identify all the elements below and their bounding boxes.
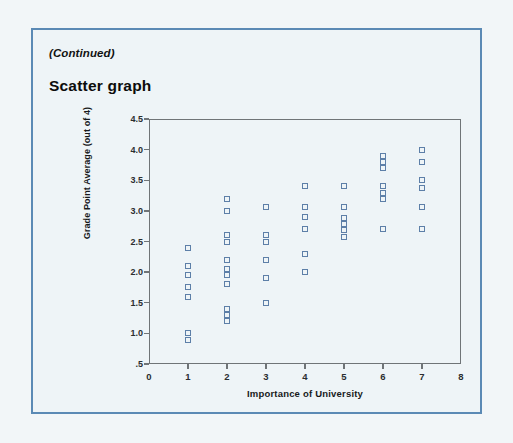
scanned-page: (Continued) Scatter graph Grade Point Av… xyxy=(0,0,513,443)
data-point xyxy=(224,318,230,324)
data-point xyxy=(224,272,230,278)
data-point xyxy=(341,221,347,227)
y-tick-mark xyxy=(144,180,149,181)
data-point xyxy=(302,269,308,275)
y-axis-title: Grade Point Average (out of 4) xyxy=(82,93,92,253)
data-point xyxy=(185,272,191,278)
data-point xyxy=(302,226,308,232)
data-point xyxy=(380,226,386,232)
x-tick-mark xyxy=(226,364,227,369)
data-point xyxy=(341,204,347,210)
data-point xyxy=(185,263,191,269)
data-point xyxy=(302,214,308,220)
data-point xyxy=(185,337,191,343)
y-tick-mark xyxy=(144,302,149,303)
data-point xyxy=(419,159,425,165)
data-point xyxy=(224,196,230,202)
y-tick-label: 1.0 xyxy=(113,328,143,338)
plot-frame xyxy=(149,119,461,364)
data-point xyxy=(185,330,191,336)
data-point xyxy=(224,306,230,312)
data-point xyxy=(380,196,386,202)
data-point xyxy=(263,232,269,238)
x-tick-label: 5 xyxy=(332,371,356,382)
y-tick-mark xyxy=(144,210,149,211)
data-point xyxy=(224,266,230,272)
data-point xyxy=(380,165,386,171)
y-tick-mark xyxy=(144,333,149,334)
y-tick-label: 3.0 xyxy=(113,206,143,216)
data-point xyxy=(302,183,308,189)
data-point xyxy=(224,208,230,214)
y-tick-mark xyxy=(144,271,149,272)
data-point xyxy=(380,153,386,159)
x-tick-label: 6 xyxy=(371,371,395,382)
data-point xyxy=(224,232,230,238)
data-point xyxy=(341,183,347,189)
y-tick-label: 4.0 xyxy=(113,145,143,155)
continued-label: (Continued) xyxy=(49,47,115,59)
data-point xyxy=(263,300,269,306)
data-point xyxy=(224,239,230,245)
data-point xyxy=(224,257,230,263)
x-tick-mark xyxy=(421,364,422,369)
data-point xyxy=(302,204,308,210)
data-point xyxy=(380,190,386,196)
data-point xyxy=(185,284,191,290)
x-tick-label: 8 xyxy=(449,371,473,382)
x-tick-label: 1 xyxy=(176,371,200,382)
y-tick-label: 2.5 xyxy=(113,237,143,247)
data-point xyxy=(419,147,425,153)
x-tick-label: 3 xyxy=(254,371,278,382)
data-point xyxy=(341,234,347,240)
y-tick-label: .5 xyxy=(113,359,143,369)
y-tick-label: 3.5 xyxy=(113,175,143,185)
data-point xyxy=(419,226,425,232)
y-tick-mark xyxy=(144,118,149,119)
data-point xyxy=(302,251,308,257)
x-tick-label: 7 xyxy=(410,371,434,382)
scatter-chart: Grade Point Average (out of 4) .51.01.52… xyxy=(71,116,471,401)
data-point xyxy=(419,177,425,183)
x-tick-label: 0 xyxy=(137,371,161,382)
y-tick-mark xyxy=(144,363,149,364)
data-point xyxy=(224,281,230,287)
x-tick-mark xyxy=(382,364,383,369)
data-point xyxy=(263,239,269,245)
data-point xyxy=(341,227,347,233)
x-axis-title: Importance of University xyxy=(149,388,461,399)
y-tick-mark xyxy=(144,149,149,150)
y-tick-mark xyxy=(144,241,149,242)
data-point xyxy=(263,257,269,263)
y-tick-label: 1.5 xyxy=(113,298,143,308)
x-tick-mark xyxy=(187,364,188,369)
x-tick-mark xyxy=(265,364,266,369)
content-box: (Continued) Scatter graph Grade Point Av… xyxy=(31,28,482,414)
x-tick-mark xyxy=(304,364,305,369)
x-tick-label: 2 xyxy=(215,371,239,382)
data-point xyxy=(263,275,269,281)
page-title: Scatter graph xyxy=(49,77,152,95)
data-point xyxy=(419,204,425,210)
data-point xyxy=(419,185,425,191)
data-point xyxy=(380,159,386,165)
data-point xyxy=(341,215,347,221)
data-point xyxy=(185,294,191,300)
data-point xyxy=(263,204,269,210)
x-tick-mark xyxy=(343,364,344,369)
data-point xyxy=(185,245,191,251)
y-tick-label: 2.0 xyxy=(113,267,143,277)
y-tick-label: 4.5 xyxy=(113,114,143,124)
x-tick-label: 4 xyxy=(293,371,317,382)
data-point xyxy=(380,183,386,189)
data-point xyxy=(224,312,230,318)
